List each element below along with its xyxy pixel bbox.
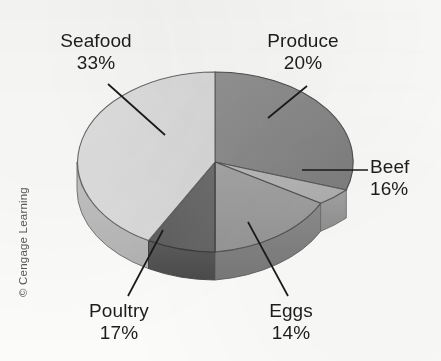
label-poultry-percent: 17% bbox=[64, 322, 174, 344]
copyright-credit: © Cengage Learning bbox=[17, 167, 29, 317]
label-seafood-percent: 33% bbox=[36, 52, 156, 74]
figure-container: Seafood 33% Produce 20% Beef 16% Eggs 14… bbox=[0, 0, 441, 361]
label-eggs-name: Eggs bbox=[269, 300, 313, 321]
label-poultry-name: Poultry bbox=[89, 300, 149, 321]
label-beef-percent: 16% bbox=[370, 178, 410, 200]
label-beef: Beef 16% bbox=[370, 156, 410, 200]
label-seafood: Seafood 33% bbox=[36, 30, 156, 74]
label-produce: Produce 20% bbox=[243, 30, 363, 74]
label-produce-percent: 20% bbox=[243, 52, 363, 74]
label-eggs-percent: 14% bbox=[244, 322, 338, 344]
label-poultry: Poultry 17% bbox=[64, 300, 174, 344]
label-beef-name: Beef bbox=[370, 156, 410, 177]
label-eggs: Eggs 14% bbox=[244, 300, 338, 344]
label-seafood-name: Seafood bbox=[60, 30, 132, 51]
label-produce-name: Produce bbox=[267, 30, 338, 51]
